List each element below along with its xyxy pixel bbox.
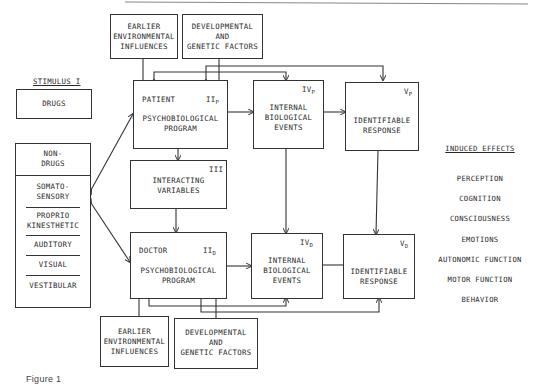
doctor-env-box: EARLIER ENVIRONMENTAL INFLUENCES	[100, 316, 169, 367]
divider	[26, 207, 80, 208]
doctor-dev-box: DEVELOPMENTAL AND GENETIC FACTORS	[174, 318, 258, 369]
doctor-program-box: DOCTOR IID PSYCHOBIOLOGICAL PROGRAM	[130, 232, 227, 299]
doctor-response-id: VD	[400, 239, 408, 248]
induced-effects-heading: INDUCED EFFECTS	[430, 144, 530, 153]
figure-caption: Figure 1	[26, 374, 61, 384]
patient-internal-label: INTERNAL BIOLOGICAL EVENTS	[254, 103, 323, 133]
modality-visual: VISUAL	[16, 260, 90, 270]
patient-response-label: IDENTIFIABLE RESPONSE	[346, 116, 418, 136]
modality-vestibular: VESTIBULAR	[16, 281, 90, 291]
doctor-response-label: IDENTIFIABLE RESPONSE	[344, 267, 414, 287]
patient-internal-id: IVP	[302, 85, 315, 94]
non-drugs-label: NON- DRUGS	[16, 149, 90, 169]
effect-emotions: EMOTIONS	[430, 235, 530, 244]
patient-response-id: VP	[404, 87, 412, 96]
patient-dev-label: DEVELOPMENTAL AND GENETIC FACTORS	[183, 22, 262, 52]
patient-program-box: PATIENT IIP PSYCHOBIOLOGICAL PROGRAM	[133, 80, 228, 149]
interacting-id: III	[209, 165, 223, 174]
modality-propriokinesthetic: PROPRIO KINESTHETIC	[16, 211, 90, 231]
doctor-role-label: DOCTOR	[139, 246, 168, 255]
doctor-dev-label: DEVELOPMENTAL AND GENETIC FACTORS	[175, 328, 257, 358]
patient-internal-events-box: IVP INTERNAL BIOLOGICAL EVENTS	[253, 80, 324, 149]
stimulus-heading: STIMULUS I	[33, 77, 81, 86]
effect-cognition: COGNITION	[430, 194, 530, 203]
doctor-internal-label: INTERNAL BIOLOGICAL EVENTS	[252, 256, 322, 286]
patient-program-id: IIP	[206, 95, 219, 104]
effect-consciousness: CONSCIOUSNESS	[430, 214, 530, 223]
doctor-internal-events-box: IVD INTERNAL BIOLOGICAL EVENTS	[251, 233, 323, 299]
patient-program-label: PSYCHOBIOLOGICAL PROGRAM	[134, 114, 227, 134]
doctor-response-box: VD IDENTIFIABLE RESPONSE	[343, 234, 415, 299]
modality-auditory: AUDITORY	[16, 240, 90, 250]
effect-perception: PERCEPTION	[430, 174, 530, 183]
divider	[26, 235, 80, 236]
doctor-program-label: PSYCHOBIOLOGICAL PROGRAM	[131, 266, 226, 286]
interacting-variables-box: III INTERACTING VARIABLES	[130, 160, 227, 209]
patient-response-box: VP IDENTIFIABLE RESPONSE	[345, 82, 419, 151]
doctor-internal-id: IVD	[300, 238, 313, 247]
doctor-env-label: EARLIER ENVIRONMENTAL INFLUENCES	[101, 327, 168, 357]
drugs-box: DRUGS	[16, 89, 92, 119]
non-drugs-box: NON- DRUGS SOMATO- SENSORY PROPRIO KINES…	[15, 143, 91, 308]
effect-behavior: BEHAVIOR	[430, 295, 530, 304]
interacting-label: INTERACTING VARIABLES	[131, 176, 226, 196]
patient-dev-box: DEVELOPMENTAL AND GENETIC FACTORS	[182, 14, 263, 59]
modality-somatosensory: SOMATO- SENSORY	[16, 182, 90, 202]
divider	[26, 255, 80, 256]
drugs-label: DRUGS	[17, 99, 91, 109]
divider	[26, 275, 80, 276]
divider	[16, 175, 90, 176]
patient-env-box: EARLIER ENVIRONMENTAL INFLUENCES	[110, 14, 178, 59]
doctor-program-id: IID	[203, 246, 216, 255]
patient-role-label: PATIENT	[142, 95, 175, 104]
effect-autonomic-function: AUTONOMIC FUNCTION	[430, 255, 530, 264]
effect-motor-function: MOTOR FUNCTION	[430, 275, 530, 284]
patient-env-label: EARLIER ENVIRONMENTAL INFLUENCES	[111, 22, 177, 52]
